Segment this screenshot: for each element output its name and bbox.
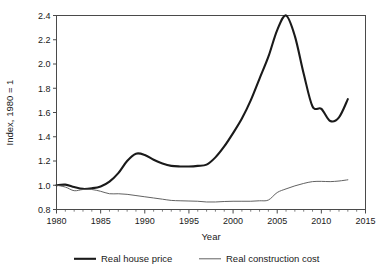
line-chart: 0.81.01.21.41.61.82.02.22.4 198019851990… (0, 0, 384, 276)
y-tick-label: 1.0 (38, 181, 51, 191)
x-tick-label: 1985 (91, 216, 111, 226)
chart-figure: 0.81.01.21.41.61.82.02.22.4 198019851990… (0, 0, 384, 276)
y-tick-label: 1.6 (38, 108, 51, 118)
x-axis-title: Year (201, 231, 220, 242)
y-tick-label: 2.2 (38, 35, 51, 45)
y-tick-label: 1.2 (38, 156, 51, 166)
y-tick-label: 1.8 (38, 84, 51, 94)
legend-label: Real construction cost (226, 253, 320, 264)
x-tick-label: 1980 (46, 216, 66, 226)
y-tick-label: 2.4 (38, 11, 51, 21)
x-tick-label: 2005 (267, 216, 287, 226)
y-tick-label: 0.8 (38, 205, 51, 215)
x-tick-label: 1990 (135, 216, 155, 226)
legend-label: Real house price (101, 253, 172, 264)
x-tick-label: 2010 (311, 216, 331, 226)
y-tick-label: 2.0 (38, 59, 51, 69)
chart-background (0, 0, 384, 276)
y-tick-label: 1.4 (38, 132, 51, 142)
y-axis-title: Index, 1980 = 1 (4, 80, 15, 146)
x-tick-label: 2000 (223, 216, 243, 226)
y-axis-tick-labels: 0.81.01.21.41.61.82.02.22.4 (38, 11, 51, 215)
x-tick-label: 1995 (179, 216, 199, 226)
x-tick-label: 2015 (355, 216, 375, 226)
